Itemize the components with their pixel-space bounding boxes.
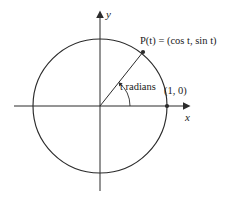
y-axis-label: y [106, 9, 111, 20]
figure-canvas [0, 0, 228, 205]
point-p-label-eq: ) = (cos [152, 35, 187, 46]
angle-label: t radians [120, 82, 156, 93]
x-axis-label: x [185, 112, 190, 123]
x-axis-arrowhead [183, 102, 191, 110]
angle-label-rest: radians [123, 81, 156, 92]
x-intercept-label: (1, 0) [164, 86, 187, 97]
point-p-label-comma: , sin [190, 35, 210, 46]
point-p-dot [141, 50, 145, 54]
point-one-zero-dot [165, 104, 169, 108]
y-axis-arrowhead [96, 11, 104, 19]
y-axis [96, 11, 104, 192]
point-p-label: P(t) = (cos t, sin t) [140, 36, 217, 47]
point-p-label-final: ) [213, 35, 217, 46]
unit-circle-figure: P(t) = (cos t, sin t) t radians (1, 0) x… [0, 0, 228, 205]
terminal-ray [100, 52, 143, 106]
